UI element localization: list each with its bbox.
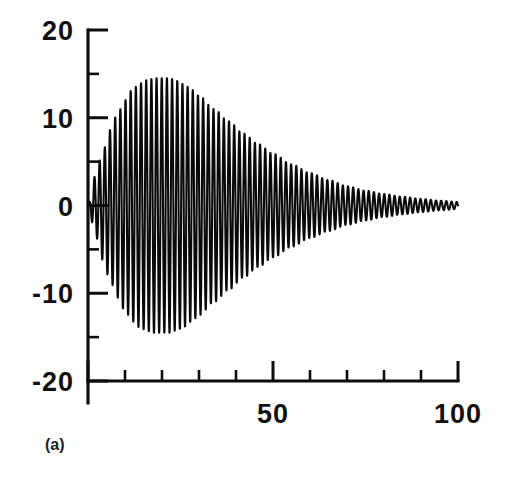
y-tick-label: 20 [42,16,74,46]
y-axis-tick-labels: 20100-10-20 [32,16,74,397]
figure-panel: 20100-10-20 50100 (a) [0,0,505,478]
x-axis-tick-labels: 50100 [257,399,482,429]
x-tick-label: 100 [434,399,482,429]
damped-oscillation-chart: 20100-10-20 50100 (a) [0,0,505,478]
panel-caption: (a) [45,436,65,453]
y-tick-label: -10 [32,279,74,309]
x-tick-label: 50 [257,399,289,429]
y-tick-label: -20 [32,367,74,397]
waveform-line [88,78,458,332]
axes-group [88,30,458,403]
y-tick-label: 0 [58,192,74,222]
x-axis-ticks [88,361,458,381]
y-tick-label: 10 [42,104,74,134]
